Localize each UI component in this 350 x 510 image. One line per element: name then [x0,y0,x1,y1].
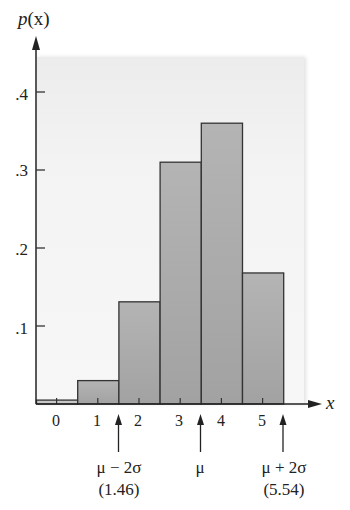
histogram-bar [160,162,201,404]
y-tick-label: .3 [0,161,28,181]
y-tick-label: .4 [0,85,28,105]
mu-minus-2sigma-value: (1.46) [79,480,159,500]
x-tick-label: 4 [211,412,231,430]
x-tick-label: 5 [252,412,272,430]
y-tick-label: .1 [0,319,28,339]
mu-plus-2sigma-value: (5.54) [244,480,324,500]
y-axis-label: p(x) [18,8,50,30]
histogram-bar [119,302,160,404]
x-tick-label: 2 [128,412,148,430]
x-tick-label: 0 [46,412,66,430]
x-tick-label: 3 [169,412,189,430]
annotation-arrow-icon [280,414,287,425]
x-axis-label: x [326,392,334,414]
annotation-arrow-icon [115,414,122,425]
histogram-chart [0,0,350,510]
annotation-arrow-icon [197,414,204,425]
mu-minus-2sigma-label: μ − 2σ [79,458,159,478]
mu-label: μ [160,458,240,478]
y-tick-label: .2 [0,240,28,260]
y-axis-arrow-icon [32,36,40,50]
histogram-bar [243,273,284,404]
histogram-bar [201,123,242,404]
x-tick-label: 1 [87,412,107,430]
mu-plus-2sigma-label: μ + 2σ [244,458,324,478]
x-axis-arrow-icon [308,400,322,408]
